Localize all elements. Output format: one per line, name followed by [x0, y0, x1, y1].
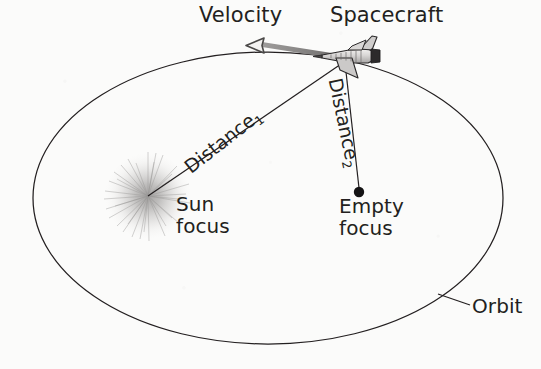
sun-focus-label-line2: focus: [176, 216, 230, 238]
sun-focus-label-line1: Sun: [176, 194, 230, 216]
empty-focus-label: Emptyfocus: [339, 196, 404, 239]
sun-focus-label: Sunfocus: [176, 194, 230, 237]
orbit-diagram: [0, 0, 541, 369]
empty-focus-label-line2: focus: [339, 218, 404, 240]
spacecraft-label: Spacecraft: [330, 4, 443, 27]
orbit-leader-line: [438, 294, 470, 305]
velocity-label: Velocity: [199, 4, 282, 27]
empty-focus-label-line1: Empty: [339, 196, 404, 218]
spacecraft-icon: [313, 36, 380, 78]
orbit-ellipse: [33, 52, 503, 344]
orbit-label: Orbit: [472, 296, 523, 318]
